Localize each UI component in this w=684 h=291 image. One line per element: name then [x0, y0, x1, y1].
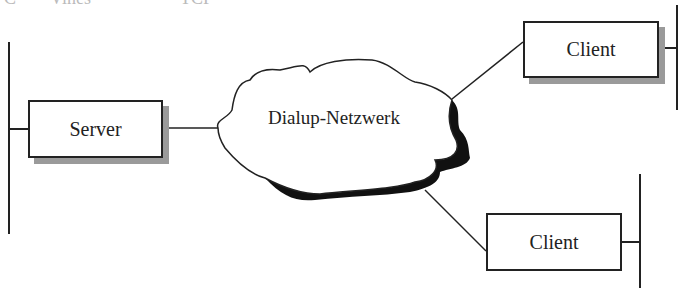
server-label: Server — [69, 118, 121, 141]
network-label: Dialup-Netzwerk — [268, 107, 400, 129]
client-node-2: Client — [486, 213, 622, 271]
client-label: Client — [567, 38, 616, 61]
client-node-1: Client — [523, 21, 659, 78]
network-diagram: C Vines TCP Dialup-Netzwerk Server Clien… — [0, 0, 684, 291]
server-node: Server — [28, 100, 163, 158]
client-label: Client — [530, 231, 579, 254]
